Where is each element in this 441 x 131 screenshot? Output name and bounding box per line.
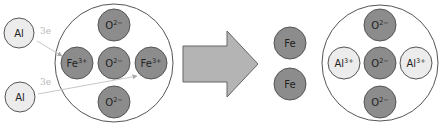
oxide-ion: O2− <box>364 9 396 41</box>
electron-count-label: 3e <box>40 26 51 36</box>
al-ion: Al3+ <box>328 47 360 79</box>
fe-ion: Fe3+ <box>61 47 93 79</box>
oxide-ion: O2− <box>98 47 130 79</box>
electron-count-label: 3e <box>40 77 51 87</box>
iron-atom-label: Fe <box>284 79 295 90</box>
iron-atom: Fe <box>274 27 306 59</box>
aluminium-atom: Al <box>5 82 35 112</box>
oxide-ion: O2− <box>98 9 130 41</box>
aluminium-atom: Al <box>4 18 34 48</box>
thermite-reaction-diagram: 3e3e AlAlO2−Fe3+O2−Fe3+O2−FeFeO2−Al3+O2−… <box>0 0 441 131</box>
oxide-ion: O2− <box>98 86 130 118</box>
fe-ion: Fe3+ <box>135 47 167 79</box>
electron-transfer: 3e <box>37 26 62 56</box>
aluminium-atom-label: Al <box>15 92 25 103</box>
iron-atom: Fe <box>274 68 306 100</box>
al-ion: Al3+ <box>400 47 432 79</box>
reaction-arrow <box>183 31 258 97</box>
oxide-ion: O2− <box>364 86 396 118</box>
oxide-ion: O2− <box>364 47 396 79</box>
reaction-arrow-icon <box>183 31 258 97</box>
aluminium-atom-label: Al <box>14 28 24 39</box>
iron-atom-label: Fe <box>284 38 295 49</box>
